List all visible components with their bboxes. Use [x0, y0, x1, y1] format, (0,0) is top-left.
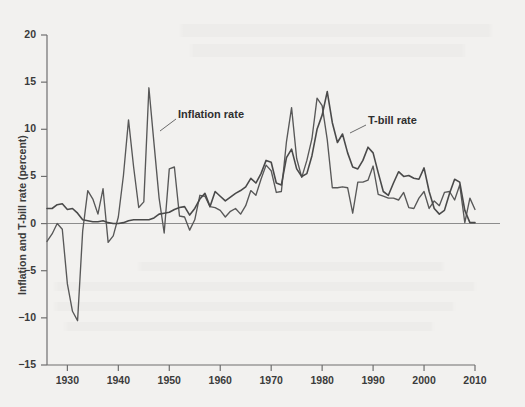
y-tick-label: −10 [0, 311, 36, 323]
x-axis [47, 365, 475, 371]
y-tick-label: 10 [0, 122, 36, 134]
x-tick-label: 2010 [455, 374, 495, 386]
chart-plot-area [0, 0, 525, 407]
t-bill-rate-line [47, 92, 475, 224]
x-tick-label: 1930 [47, 374, 87, 386]
t-bill-rate-label: T-bill rate [368, 114, 417, 126]
annotation-leader-line [350, 125, 366, 133]
inflation-and-tbill-rate-chart: Inflation and T-bill rate (percent) 2015… [0, 0, 525, 407]
inflation-rate-label: Inflation rate [178, 108, 244, 120]
y-tick-label: 5 [0, 169, 36, 181]
y-tick-label: 15 [0, 75, 36, 87]
x-tick-label: 1970 [251, 374, 291, 386]
x-tick-label: 1960 [200, 374, 240, 386]
annotation-leader-line [160, 119, 176, 131]
x-tick-label: 1990 [353, 374, 393, 386]
y-tick-label: 0 [0, 217, 36, 229]
y-tick-label: −5 [0, 264, 36, 276]
x-tick-label: 2000 [404, 374, 444, 386]
x-tick-label: 1980 [302, 374, 342, 386]
x-tick-label: 1950 [149, 374, 189, 386]
y-axis [41, 35, 47, 365]
y-tick-label: 20 [0, 28, 36, 40]
x-tick-label: 1940 [98, 374, 138, 386]
y-tick-label: −15 [0, 358, 36, 370]
